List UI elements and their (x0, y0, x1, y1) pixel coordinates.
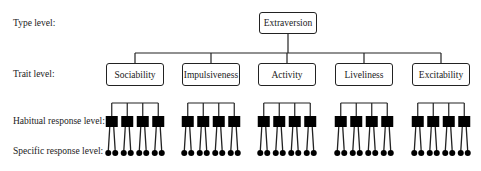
type-node-extraversion: Extraversion (259, 12, 317, 34)
specific-response-node (442, 150, 448, 156)
specific-response-node (105, 150, 111, 156)
specific-response-node (121, 150, 127, 156)
specific-response-node (427, 150, 433, 156)
habitual-response-node (258, 116, 270, 127)
specific-response-node (264, 150, 270, 156)
specific-response-node (159, 150, 165, 156)
trait-node-liveliness: Liveliness (335, 63, 393, 86)
specific-response-node (381, 150, 387, 156)
specific-response-node (388, 150, 394, 156)
habitual-response-node (273, 116, 285, 127)
specific-response-node (219, 150, 225, 156)
hierarchy-connectors (0, 0, 481, 171)
specific-response-node (181, 150, 187, 156)
specific-response-node (152, 150, 158, 156)
specific-response-node (128, 150, 134, 156)
specific-response-node (197, 150, 203, 156)
specific-response-node (257, 150, 263, 156)
specific-response-node (465, 150, 471, 156)
specific-response-node (228, 150, 234, 156)
specific-response-node (434, 150, 440, 156)
specific-response-node (449, 150, 455, 156)
habitual-response-node (152, 116, 164, 127)
specific-response-node (112, 150, 118, 156)
habitual-response-node (427, 116, 439, 127)
specific-response-node (273, 150, 279, 156)
habitual-response-node (197, 116, 209, 127)
habitual-response-node (458, 116, 470, 127)
habitual-response-node (182, 116, 194, 127)
habitual-response-node (304, 116, 316, 127)
specific-response-node (365, 150, 371, 156)
specific-response-node (372, 150, 378, 156)
specific-response-node (311, 150, 317, 156)
trait-node-impulsiveness: Impulsiveness (182, 63, 240, 86)
habitual-response-node (137, 116, 149, 127)
habitual-response-node (106, 116, 118, 127)
specific-response-node (188, 150, 194, 156)
specific-response-node (143, 150, 149, 156)
habitual-response-node (381, 116, 393, 127)
specific-response-node (280, 150, 286, 156)
specific-response-node (204, 150, 210, 156)
specific-response-node (212, 150, 218, 156)
specific-response-node (350, 150, 356, 156)
habitual-response-node (350, 116, 362, 127)
specific-response-node (411, 150, 417, 156)
specific-response-node (304, 150, 310, 156)
habitual-response-node (443, 116, 455, 127)
specific-response-node (235, 150, 241, 156)
habitual-response-node (228, 116, 240, 127)
specific-response-node (341, 150, 347, 156)
trait-node-activity: Activity (258, 63, 316, 86)
specific-response-node (418, 150, 424, 156)
trait-node-sociability: Sociability (106, 63, 164, 86)
habitual-response-node (289, 116, 301, 127)
specific-response-node (357, 150, 363, 156)
specific-response-node (288, 150, 294, 156)
specific-response-node (334, 150, 340, 156)
habitual-response-node (121, 116, 133, 127)
trait-node-excitability: Excitability (412, 63, 470, 86)
habitual-response-node (335, 116, 347, 127)
specific-response-node (458, 150, 464, 156)
habitual-response-node (412, 116, 424, 127)
habitual-response-node (213, 116, 225, 127)
specific-response-node (295, 150, 301, 156)
specific-response-node (136, 150, 142, 156)
habitual-response-node (366, 116, 378, 127)
